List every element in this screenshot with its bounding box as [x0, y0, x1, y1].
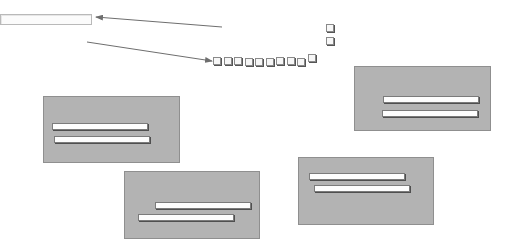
input-bar-2[interactable]: [314, 185, 410, 192]
square-button[interactable]: [326, 37, 334, 45]
input-bar-1[interactable]: [52, 123, 148, 130]
square-button[interactable]: [276, 57, 284, 65]
arrow-2-icon: [87, 42, 212, 61]
square-button[interactable]: [224, 57, 232, 65]
square-button[interactable]: [297, 58, 305, 66]
arrow-1-icon: [96, 17, 222, 27]
square-button[interactable]: [266, 58, 274, 66]
square-button[interactable]: [245, 58, 253, 66]
input-bar-1[interactable]: [383, 96, 479, 103]
square-button[interactable]: [287, 57, 295, 65]
square-button[interactable]: [255, 58, 263, 66]
input-bar-2[interactable]: [54, 136, 150, 143]
input-bar-2[interactable]: [138, 214, 234, 221]
input-bar-1[interactable]: [155, 202, 251, 209]
input-bar-1[interactable]: [309, 173, 405, 180]
square-button[interactable]: [326, 24, 334, 32]
square-button[interactable]: [213, 57, 221, 65]
square-button[interactable]: [308, 54, 316, 62]
panel-bottom-center: [124, 171, 260, 239]
panel-left: [43, 96, 180, 163]
panel-top-right: [354, 66, 491, 131]
square-button[interactable]: [234, 57, 242, 65]
panel-bottom-right: [298, 157, 434, 225]
input-bar-2[interactable]: [382, 110, 478, 117]
